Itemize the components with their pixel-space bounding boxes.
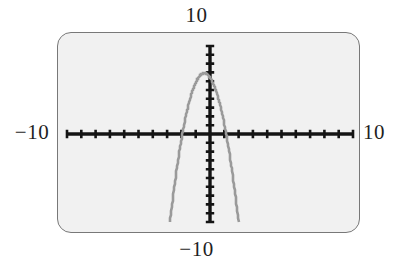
x-max-label: 10 (363, 122, 393, 143)
y-max-label: 10 (0, 5, 393, 26)
y-min-label: −10 (0, 239, 393, 260)
x-min-label: −10 (8, 122, 56, 143)
parabola-curve (170, 73, 239, 222)
plot-area (58, 33, 360, 233)
figure-container: 10 −10 10 −10 (0, 0, 393, 267)
calculator-screen (57, 32, 360, 233)
